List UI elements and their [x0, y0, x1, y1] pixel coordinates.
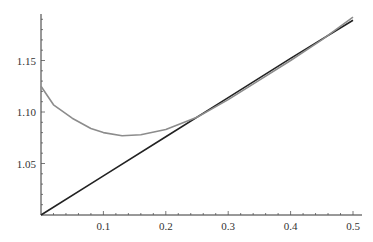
y-tick-label: 1.10 [17, 106, 37, 118]
x-tick-label: 0.3 [221, 220, 235, 232]
x-tick-label: 0.4 [284, 220, 298, 232]
x-tick-label: 0.5 [346, 220, 360, 232]
gray-curve-series [41, 17, 353, 136]
y-tick-label: 1.05 [17, 158, 37, 170]
y-tick-label: 1.15 [17, 55, 37, 67]
line-chart: 1.051.101.15 0.10.20.30.40.5 [0, 0, 373, 242]
x-tick-label: 0.2 [159, 220, 173, 232]
x-axis: 0.10.20.30.40.5 [41, 211, 362, 232]
series-group [41, 17, 353, 215]
x-tick-label: 0.1 [97, 220, 111, 232]
y-axis: 1.051.101.15 [17, 14, 45, 215]
